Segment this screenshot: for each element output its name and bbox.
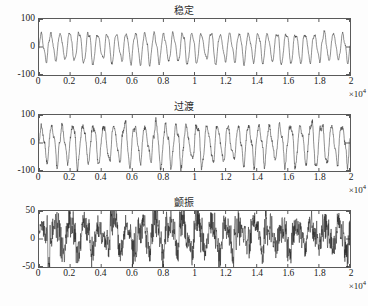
x-tick-label: 1.2: [220, 268, 232, 278]
plot-area-transition: [38, 114, 351, 172]
x-axis-labels-transition: 00.20.40.60.811.21.41.61.82: [38, 172, 351, 184]
x-tick-label: 1.6: [282, 76, 294, 86]
x-axis-labels-stable: 00.20.40.60.811.21.41.61.82: [38, 76, 351, 88]
exponent-power: 4: [363, 87, 366, 94]
x-tick-label: 1: [192, 268, 197, 278]
x-axis-exponent-transition: ×104: [349, 183, 366, 195]
signal-trace: [39, 30, 350, 66]
x-tick-label: 1.4: [251, 268, 263, 278]
y-tick-label: 100: [21, 13, 35, 23]
x-tick-label: 1.6: [282, 172, 294, 182]
subplot-chatter: 颤振 -50050 00.20.40.60.811.21.41.61.82 ×1…: [0, 196, 368, 306]
exponent-base: ×10: [349, 281, 363, 291]
x-tick-label: 2: [349, 172, 354, 182]
y-tick-label: 50: [26, 205, 36, 215]
x-axis-exponent-stable: ×104: [349, 87, 366, 99]
x-tick-label: 2: [349, 76, 354, 86]
waveform-chatter: [39, 211, 350, 267]
y-tick-label: -50: [22, 261, 35, 271]
x-tick-label: 1: [192, 172, 197, 182]
subplot-transition: 过渡 -1000100 00.20.40.60.811.21.41.61.82 …: [0, 100, 368, 196]
plot-area-stable: [38, 18, 351, 76]
x-tick-label: 0.2: [63, 76, 75, 86]
x-tick-label: 0: [36, 76, 41, 86]
y-axis-labels-chatter: -50050: [0, 196, 35, 272]
y-tick-label: -100: [18, 165, 35, 175]
x-tick-label: 0: [36, 268, 41, 278]
x-tick-label: 1.2: [220, 172, 232, 182]
y-tick-label: -100: [18, 69, 35, 79]
x-tick-label: 2: [349, 268, 354, 278]
x-tick-label: 0.6: [126, 172, 138, 182]
x-tick-label: 0.6: [126, 76, 138, 86]
x-tick-label: 1: [192, 76, 197, 86]
x-tick-label: 0.6: [126, 268, 138, 278]
x-tick-label: 1.8: [314, 268, 326, 278]
waveform-transition: [39, 115, 350, 171]
y-axis-labels-transition: -1000100: [0, 100, 35, 176]
subplot-stable: 稳定 -1000100 00.20.40.60.811.21.41.61.82 …: [0, 4, 368, 100]
exponent-base: ×10: [349, 89, 363, 99]
x-axis-labels-chatter: 00.20.40.60.811.21.41.61.82: [38, 268, 351, 280]
x-tick-label: 0.2: [63, 268, 75, 278]
x-tick-label: 0.4: [95, 172, 107, 182]
signal-trace: [39, 117, 350, 171]
y-tick-label: 0: [30, 233, 35, 243]
exponent-power: 4: [363, 279, 366, 286]
plot-area-chatter: [38, 210, 351, 268]
x-tick-label: 1.4: [251, 172, 263, 182]
x-tick-label: 1.8: [314, 172, 326, 182]
y-tick-label: 100: [21, 109, 35, 119]
y-axis-labels-stable: -1000100: [0, 4, 35, 80]
matlab-figure: 稳定 -1000100 00.20.40.60.811.21.41.61.82 …: [0, 0, 368, 306]
x-tick-label: 0: [36, 172, 41, 182]
x-tick-label: 0.4: [95, 268, 107, 278]
subplot-title-transition: 过渡: [0, 100, 368, 113]
x-tick-label: 0.8: [157, 76, 169, 86]
x-tick-label: 1.6: [282, 268, 294, 278]
x-tick-label: 1.2: [220, 76, 232, 86]
x-tick-label: 0.8: [157, 268, 169, 278]
x-tick-label: 0.8: [157, 172, 169, 182]
x-tick-label: 1.4: [251, 76, 263, 86]
exponent-base: ×10: [349, 185, 363, 195]
x-tick-label: 0.4: [95, 76, 107, 86]
exponent-power: 4: [363, 183, 366, 190]
y-tick-label: 0: [30, 137, 35, 147]
waveform-stable: [39, 19, 350, 75]
subplot-title-chatter: 颤振: [0, 196, 368, 209]
x-axis-exponent-chatter: ×104: [349, 279, 366, 291]
x-tick-label: 1.8: [314, 76, 326, 86]
signal-trace: [39, 211, 350, 267]
y-tick-label: 0: [30, 41, 35, 51]
subplot-title-stable: 稳定: [0, 4, 368, 17]
x-tick-label: 0.2: [63, 172, 75, 182]
